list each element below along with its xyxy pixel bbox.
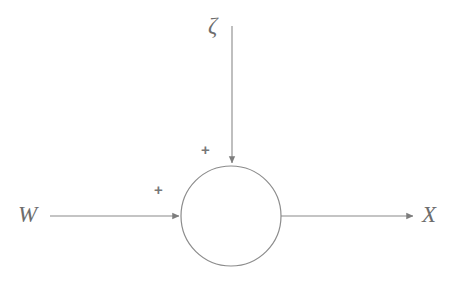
output-label: X [422,203,436,226]
diagram-vector-layer [0,0,459,287]
noise-input-label: ζ [208,14,217,37]
plus-sign-top: + [201,142,210,157]
diagram-canvas: ζ W X + + [0,0,459,287]
plus-sign-left: + [154,182,163,197]
summing-junction-circle [181,166,281,266]
signal-input-label: W [18,203,37,226]
